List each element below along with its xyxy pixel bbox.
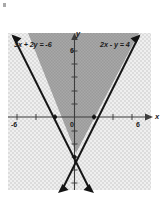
- y-tick-label-pos6: 6: [70, 47, 74, 54]
- equation-label-left: 3x + 2y = -6: [14, 41, 52, 48]
- y-intercept-marker: [72, 155, 76, 159]
- x-axis-label: x: [155, 113, 159, 121]
- x-tick-label-neg6: -6: [11, 121, 17, 128]
- x-tick-label-pos6: 6: [136, 121, 140, 128]
- graph-figure: 3x + 2y = -6 2x - y = 4 x y -6 6 6 0: [0, 0, 163, 200]
- equation-label-right: 2x - y = 4: [100, 41, 130, 48]
- coordinate-plane: [0, 0, 163, 200]
- origin-label: 0: [70, 121, 74, 128]
- y-axis-label: y: [76, 30, 80, 38]
